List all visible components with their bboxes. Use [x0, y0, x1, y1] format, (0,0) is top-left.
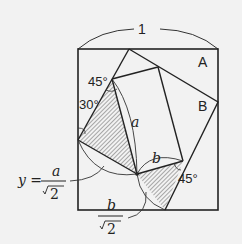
b-formula-numerator: b: [107, 197, 116, 213]
b-formula-denominator: 2: [107, 221, 116, 237]
y-formula-lhs: y =: [17, 172, 42, 188]
y-formula-numerator: a: [52, 163, 60, 179]
region-label-b: B: [198, 98, 207, 114]
angle-label-45-bottom: 45°: [178, 171, 198, 186]
inner-rect-top: [112, 67, 158, 79]
segment-label-a: a: [131, 114, 139, 130]
angle-label-45-top: 45°: [88, 74, 108, 89]
shaded-triangle-bottom: [137, 161, 183, 210]
region-label-a: A: [198, 54, 208, 70]
segment-label-b: b: [152, 150, 161, 166]
width-arc-right: [160, 29, 218, 49]
y-formula-denominator: 2: [50, 186, 59, 202]
shaded-triangle-left: [78, 79, 137, 174]
b-leader-line: [128, 192, 146, 218]
angle-label-30: 30°: [79, 97, 99, 112]
inner-rect-right: [158, 67, 183, 161]
y-leader-line: [70, 166, 104, 181]
width-arc-left: [78, 29, 134, 49]
geometry-diagram: 1 A B 45° 30° 45° a b y = a 2 b 2: [0, 0, 242, 244]
width-label: 1: [138, 21, 146, 37]
